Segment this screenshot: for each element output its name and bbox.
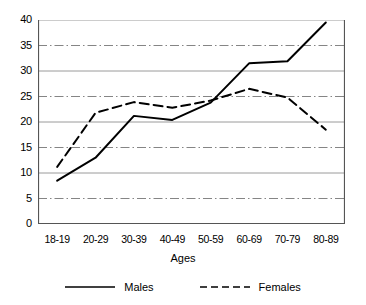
y-tick-label: 25: [6, 91, 32, 102]
legend-label-females: Females: [259, 282, 301, 293]
x-tick-label: 80-89: [303, 234, 349, 245]
plot-svg: [38, 20, 345, 224]
series-line-males: [57, 23, 326, 181]
x-axis-title: Ages: [0, 252, 366, 264]
legend-entry-males: Males: [65, 282, 153, 293]
legend-swatch-dashed-line: [200, 282, 250, 292]
plot-area: [38, 20, 345, 224]
y-tick-label: 35: [6, 40, 32, 51]
legend-swatch-solid-line: [65, 282, 115, 292]
y-tick-label: 0: [6, 218, 32, 229]
y-tick-label: 15: [6, 142, 32, 153]
y-tick-label: 30: [6, 65, 32, 76]
y-tick-label: 5: [6, 193, 32, 204]
y-tick-label: 40: [6, 14, 32, 25]
y-tick-label: 10: [6, 167, 32, 178]
legend-label-males: Males: [124, 282, 153, 293]
y-tick-label: 20: [6, 116, 32, 127]
line-chart: 0 5 10 15 20 25 30 35 40 18-19 20-29 30-…: [0, 0, 366, 305]
chart-legend: Males Females: [0, 276, 366, 298]
legend-entry-females: Females: [200, 282, 301, 293]
